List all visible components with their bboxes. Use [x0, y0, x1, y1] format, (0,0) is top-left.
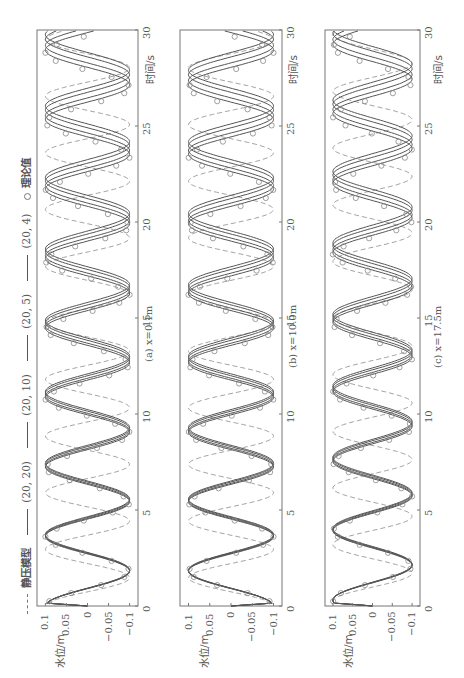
- theory-marker: [385, 66, 390, 71]
- theory-marker: [361, 405, 366, 410]
- level-tick-label: 0: [367, 612, 378, 618]
- theory-marker: [69, 107, 74, 112]
- time-tick-label: 30: [423, 26, 434, 39]
- theory-marker: [84, 413, 89, 418]
- theory-marker: [191, 91, 196, 96]
- time-tick-label: 20: [423, 218, 434, 231]
- nonhydrostatic-curve: [189, 31, 274, 606]
- theory-marker: [122, 91, 127, 96]
- theory-marker: [232, 34, 237, 39]
- theory-marker: [53, 58, 58, 63]
- theory-marker: [343, 123, 348, 128]
- legend-solid-swatch: [27, 335, 28, 361]
- theory-marker: [362, 99, 367, 104]
- theory-marker: [234, 66, 239, 71]
- level-tick-label: 0: [82, 612, 93, 618]
- theory-marker: [250, 131, 255, 136]
- time-tick-label: 25: [423, 122, 434, 135]
- level-tick-label: −0.05: [386, 611, 397, 642]
- time-tick-label: 15: [141, 314, 152, 327]
- theory-marker: [261, 58, 266, 63]
- theory-marker: [47, 115, 52, 120]
- theory-marker: [215, 99, 220, 104]
- legend-solid-swatch: [27, 509, 28, 535]
- theory-marker: [80, 66, 85, 71]
- theory-marker: [81, 34, 86, 39]
- legend-solid-swatch: [27, 422, 28, 448]
- theory-marker: [335, 50, 340, 55]
- time-tick-label: 5: [285, 510, 296, 516]
- level-tick-label: 0.1: [39, 614, 50, 630]
- time-tick-label: 25: [141, 122, 152, 135]
- theory-marker: [379, 163, 384, 168]
- time-tick-label: 10: [141, 410, 152, 423]
- theory-marker: [107, 373, 112, 378]
- legend-static-model: 静压模型: [20, 548, 32, 588]
- theory-marker: [220, 139, 225, 144]
- theory-marker: [114, 163, 119, 168]
- level-tick-label: 0.1: [183, 614, 194, 630]
- theory-marker: [408, 83, 413, 88]
- time-tick-label: 15: [423, 314, 434, 327]
- legend-series-20-4: (20, 4): [20, 214, 32, 249]
- level-tick-label: 0.1: [327, 614, 338, 630]
- time-tick-label: 30: [141, 26, 152, 39]
- level-tick-label: 0.05: [204, 614, 215, 636]
- static-model-curve: [45, 31, 129, 606]
- panel-a-ylabel: 水位/m: [52, 634, 67, 668]
- legend-dashed-swatch: [27, 594, 28, 614]
- legend: 静压模型 (20, 20) (20, 10) (20, 5) (20, 4) 理…: [18, 158, 33, 614]
- legend-theory: 理论值: [20, 158, 32, 188]
- time-tick-label: 0: [285, 606, 296, 612]
- time-tick-label: 30: [285, 26, 296, 39]
- legend-series-20-5: (20, 5): [20, 294, 32, 329]
- theory-marker: [344, 381, 349, 386]
- panel-c-ylabel: 水位/m: [340, 634, 355, 668]
- theory-marker: [269, 123, 274, 128]
- theory-marker: [396, 139, 401, 144]
- nonhydrostatic-curve: [189, 31, 274, 606]
- time-tick-label: 20: [285, 218, 296, 231]
- level-tick-label: −0.05: [103, 611, 114, 642]
- panel-a-plot: [37, 30, 138, 606]
- theory-marker: [237, 381, 242, 386]
- level-tick-label: −0.1: [268, 612, 279, 636]
- legend-solid-swatch: [27, 255, 28, 281]
- theory-marker: [357, 58, 362, 63]
- theory-marker: [351, 171, 356, 176]
- theory-marker: [347, 34, 352, 39]
- nonhydrostatic-curve: [189, 31, 274, 606]
- level-tick-label: −0.1: [124, 612, 135, 636]
- theory-marker: [390, 91, 395, 96]
- theory-marker: [369, 131, 374, 136]
- figure-canvas: [0, 0, 464, 678]
- level-tick-label: 0.05: [60, 614, 71, 636]
- time-tick-label: 10: [423, 410, 434, 423]
- legend-circle-icon: [24, 193, 31, 200]
- time-tick-label: 10: [285, 410, 296, 423]
- time-tick-label: 0: [141, 606, 152, 612]
- theory-marker: [63, 131, 68, 136]
- legend-series-20-10: (20, 10): [20, 374, 32, 416]
- panel-b-plot: [180, 30, 282, 606]
- panel-b-ylabel: 水位/m: [196, 634, 211, 668]
- panel-c-xlabel: 时间/s: [430, 55, 445, 84]
- theory-marker: [229, 413, 234, 418]
- nonhydrostatic-curve: [189, 31, 274, 606]
- time-tick-label: 15: [285, 314, 296, 327]
- theory-marker: [207, 373, 212, 378]
- theory-marker: [45, 123, 50, 128]
- panel-a-xlabel: 时间/s: [142, 55, 157, 84]
- time-tick-label: 5: [423, 510, 434, 516]
- theory-marker: [228, 171, 233, 176]
- level-tick-label: −0.1: [406, 612, 417, 636]
- legend-series-20-20: (20, 20): [20, 461, 32, 503]
- theory-marker: [86, 171, 91, 176]
- theory-marker: [267, 115, 272, 120]
- panel-b-xlabel: 时间/s: [285, 55, 300, 84]
- theory-marker: [199, 163, 204, 168]
- nonhydrostatic-curve: [333, 31, 412, 606]
- theory-marker: [77, 381, 82, 386]
- time-tick-label: 0: [423, 606, 434, 612]
- level-tick-label: 0: [225, 612, 236, 618]
